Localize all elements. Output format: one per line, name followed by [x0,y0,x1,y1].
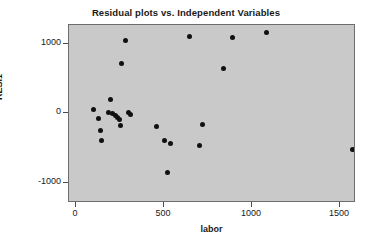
data-point [117,117,122,122]
x-tick-mark [163,202,164,207]
data-point [154,124,159,129]
data-point [200,122,205,127]
y-tick-label: -1000 [38,176,61,186]
x-tick-label: 1500 [319,208,359,218]
y-axis-label: RESI1 [0,74,4,100]
scatter-plot-panel [68,24,355,202]
data-point [91,107,96,112]
data-point [108,97,113,102]
data-point [128,112,133,117]
x-tick-mark [339,202,340,207]
data-point [162,138,167,143]
data-point [96,116,101,121]
y-tick-label: 0 [56,106,61,116]
y-tick-mark [63,112,68,113]
data-point [123,38,128,43]
data-point [98,128,103,133]
data-point [168,141,173,146]
data-point [230,35,235,40]
x-tick-mark [75,202,76,207]
x-tick-label: 500 [143,208,183,218]
data-point [197,143,202,148]
data-point [119,61,124,66]
data-point [264,30,269,35]
data-point [187,34,192,39]
x-tick-label: 0 [55,208,95,218]
data-point [350,147,355,152]
data-point [118,123,123,128]
y-tick-mark [63,182,68,183]
data-point [221,66,226,71]
x-axis-label: labor [68,224,355,234]
data-point [99,138,104,143]
y-tick-label: 1000 [41,37,61,47]
chart-figure: Residual plots vs. Independent Variables… [0,0,372,247]
x-tick-mark [251,202,252,207]
data-point [165,170,170,175]
page-title: Residual plots vs. Independent Variables [0,7,372,18]
y-tick-mark [63,43,68,44]
x-tick-label: 1000 [231,208,271,218]
